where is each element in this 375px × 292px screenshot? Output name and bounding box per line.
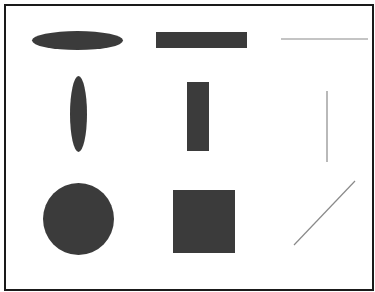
- vertical-rectangle: [187, 82, 209, 151]
- horizontal-ellipse: [32, 31, 123, 50]
- square: [173, 190, 235, 253]
- horizontal-rectangle: [156, 32, 247, 48]
- circle: [43, 183, 114, 255]
- vertical-ellipse: [70, 76, 87, 152]
